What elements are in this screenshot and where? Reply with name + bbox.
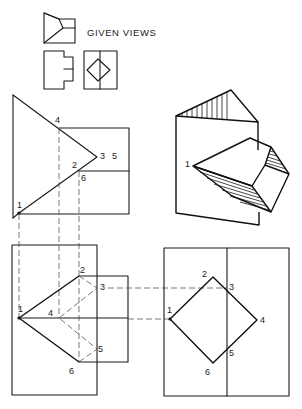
side-view-label-2: 2 xyxy=(202,270,207,279)
top-view-label-5: 5 xyxy=(112,152,117,161)
given-view-side-thumbnail xyxy=(44,51,73,89)
given-view-end-thumbnail xyxy=(84,51,117,89)
drawing-svg xyxy=(0,0,302,409)
isometric-label-1: 1 xyxy=(185,160,190,169)
front-view-label-6: 6 xyxy=(69,367,74,376)
side-view-label-1: 1 xyxy=(167,306,172,315)
isometric-view xyxy=(176,90,289,225)
front-view-label-3: 3 xyxy=(100,283,105,292)
side-view-label-5: 5 xyxy=(229,349,234,358)
given-views-title: GIVEN VIEWS xyxy=(87,27,156,38)
front-view-label-4: 4 xyxy=(48,309,53,318)
top-view-label-6: 6 xyxy=(81,174,86,183)
top-face-hatching xyxy=(182,92,227,120)
front-view-label-5: 5 xyxy=(98,345,103,354)
top-view-label-1: 1 xyxy=(17,201,22,210)
bottom-face-hatching xyxy=(200,172,269,210)
side-view xyxy=(164,248,289,396)
side-view-label-4: 4 xyxy=(260,316,265,325)
front-view-label-1: 1 xyxy=(18,305,23,314)
top-view-label-4: 4 xyxy=(55,116,60,125)
top-view-label-2: 2 xyxy=(72,161,77,170)
given-view-front-thumbnail xyxy=(44,13,75,43)
drawing-canvas: GIVEN VIEWS 4 3 5 2 6 1 1 2 3 4 5 6 1 2 … xyxy=(0,0,302,409)
side-view-label-3: 3 xyxy=(229,283,234,292)
top-view-label-3: 3 xyxy=(100,152,105,161)
front-view-label-2: 2 xyxy=(80,266,85,275)
side-view-label-6: 6 xyxy=(205,368,210,377)
